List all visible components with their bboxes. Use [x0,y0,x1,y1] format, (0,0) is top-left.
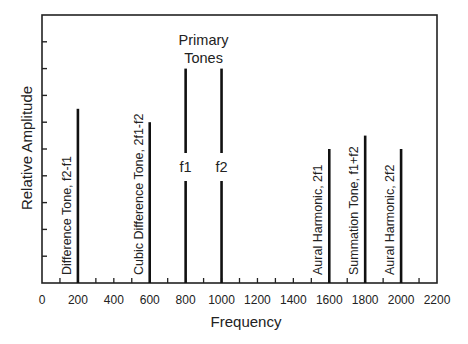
bar-label: Aural Harmonic, 2f2 [383,164,397,275]
bar-label: f1 [180,159,192,175]
x-axis-title: Frequency [211,313,282,330]
x-tick-label: 1800 [352,293,379,307]
bar-label: Aural Harmonic, 2f1 [311,164,325,275]
x-tick-label: 800 [176,293,196,307]
bar-labels: Difference Tone, f2-f1Cubic Difference T… [60,114,397,275]
x-tick-label: 1400 [280,293,307,307]
x-tick-label: 1600 [316,293,343,307]
bar-label: Summation Tone, f1+f2 [347,146,361,275]
x-tick-label: 2200 [424,293,451,307]
plot-frame [42,15,437,283]
x-tick-label: 600 [140,293,160,307]
bar-label: Difference Tone, f2-f1 [60,156,74,275]
primary-tones-annotation: Primary [179,32,230,48]
bar-label: f2 [215,159,227,175]
primary-tones-annotation: Tones [184,50,223,66]
annotations: PrimaryTones [179,32,230,66]
spectrum-chart: 0200400600800100012001400160018002000220… [0,0,468,344]
x-tick-label: 1000 [208,293,235,307]
x-axis-tick-labels: 0200400600800100012001400160018002000220… [39,293,451,307]
y-axis-title: Relative Amplitude [18,86,35,210]
bar-label: Cubic Difference Tone, 2f1-f2 [132,114,146,275]
x-tick-label: 1200 [244,293,271,307]
x-tick-label: 400 [104,293,124,307]
plot-border [42,15,437,283]
x-tick-label: 200 [68,293,88,307]
x-tick-label: 0 [39,293,46,307]
x-tick-label: 2000 [388,293,415,307]
